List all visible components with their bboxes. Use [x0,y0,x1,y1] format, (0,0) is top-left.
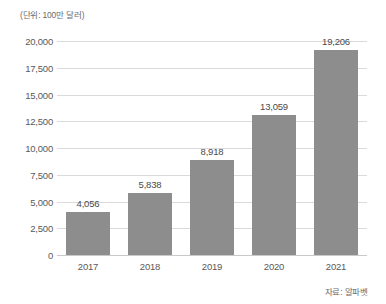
bar-value-label: 5,838 [139,179,162,190]
gridline [57,255,367,256]
bar-value-label: 19,206 [322,36,350,47]
bar-slot: 19,206 [314,41,357,255]
bar[interactable] [128,193,171,255]
y-axis-tick-label: 0 [48,250,53,261]
bar-value-label: 8,918 [201,146,224,157]
y-axis-tick-label: 15,000 [25,89,53,100]
x-axis-tick-label: 2021 [305,261,367,272]
x-axis-tick-label: 2019 [181,261,243,272]
y-axis-tick-label: 5,000 [30,196,53,207]
unit-label: (단위: 100만 달러) [20,8,84,20]
bar[interactable] [66,212,109,255]
y-axis-tick-label: 7,500 [30,169,53,180]
y-axis-tick-label: 17,500 [25,62,53,73]
bar-slot: 13,059 [252,41,295,255]
bar-slot: 4,056 [66,41,109,255]
bar-chart: (단위: 100만 달러) 4,0565,8388,91813,05919,20… [0,0,386,304]
bar[interactable] [252,115,295,255]
y-axis-tick-label: 12,500 [25,116,53,127]
bar-value-label: 13,059 [260,101,288,112]
x-axis-tick-label: 2018 [119,261,181,272]
x-axis-tick-label: 2017 [57,261,119,272]
bar-series: 4,0565,8388,91813,05919,206 [57,41,367,255]
x-axis-tick-label: 2020 [243,261,305,272]
y-axis-tick-label: 2,500 [30,223,53,234]
plot-area: 4,0565,8388,91813,05919,206 [57,41,367,255]
bar-slot: 5,838 [128,41,171,255]
bar[interactable] [314,50,357,256]
source-note: 자료: 알파벳 [325,285,368,297]
bar[interactable] [190,160,233,255]
bar-value-label: 4,056 [77,198,100,209]
bar-slot: 8,918 [190,41,233,255]
y-axis-tick-label: 10,000 [25,143,53,154]
y-axis-tick-label: 20,000 [25,36,53,47]
